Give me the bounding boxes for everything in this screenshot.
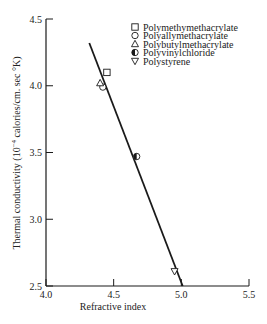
legend-marker (132, 58, 139, 64)
legend-item: Polystyrene (132, 56, 191, 67)
chart: 2.53.03.54.04.54.04.55.05.5 Polymethymet… (0, 0, 267, 324)
triangle-up-marker-icon (132, 40, 139, 46)
y-tick-label: 4.0 (30, 80, 43, 91)
x-axis-label: Refractive index (80, 301, 146, 312)
circle-marker-icon (132, 32, 138, 38)
triangle-down-marker-icon (132, 58, 139, 64)
regression-line (89, 43, 182, 286)
data-point (104, 69, 110, 75)
triangle-up-marker-icon (97, 79, 104, 85)
legend-marker (132, 49, 138, 55)
y-tick-label: 4.5 (30, 14, 43, 25)
y-axis-label: Thermal conductivity (10−4 calories/cm. … (10, 56, 23, 249)
y-tick-label: 3.5 (30, 147, 43, 158)
data-point (97, 79, 104, 85)
x-tick-label: 4.5 (107, 289, 120, 300)
y-tick-label: 3.0 (30, 214, 43, 225)
legend: PolymethymethacrylatePolyallymethacrylat… (132, 22, 239, 67)
x-tick-label: 5.5 (243, 289, 256, 300)
square-marker-icon (132, 24, 138, 30)
legend-label: Polystyrene (143, 56, 191, 67)
legend-marker (132, 40, 139, 46)
fit-line (89, 43, 182, 286)
x-tick-label: 4.0 (40, 289, 53, 300)
x-tick-label: 5.0 (175, 289, 188, 300)
data-point (133, 153, 139, 159)
square-marker-icon (104, 69, 110, 75)
legend-marker (132, 32, 138, 38)
legend-marker (132, 24, 138, 30)
